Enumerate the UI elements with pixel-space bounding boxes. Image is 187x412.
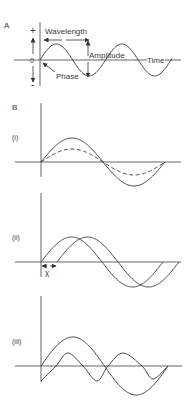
subpanel-iii-wave-high-frequency: [41, 353, 168, 381]
subpanel-i-label: (i): [12, 134, 18, 142]
time-label: Time: [147, 56, 165, 65]
subpanel-i: (i): [12, 103, 181, 186]
subpanel-iii-label: (iii): [12, 338, 21, 346]
panel-b-label: B: [12, 103, 17, 112]
amplitude-label: Amplitude: [89, 51, 125, 60]
phase-arrow-icon: [43, 63, 55, 72]
subpanel-ii-label: (ii): [12, 234, 20, 242]
panel-b: B (i) (ii) χ (iii): [12, 103, 182, 395]
plus-sign: +: [30, 25, 36, 36]
zero-label: 0: [30, 57, 34, 64]
panel-a: A + 0 - Wavelength Amplitude Phase Time: [4, 21, 181, 90]
subpanel-iii: (iii): [12, 296, 182, 395]
phase-label: Phase: [56, 72, 79, 81]
wavelength-label: Wavelength: [45, 27, 87, 36]
waveform-figure: A + 0 - Wavelength Amplitude Phase Time …: [0, 0, 187, 412]
phase-shift-label: χ: [45, 268, 50, 277]
subpanel-ii: (ii) χ: [12, 193, 181, 287]
panel-a-label: A: [4, 21, 10, 30]
